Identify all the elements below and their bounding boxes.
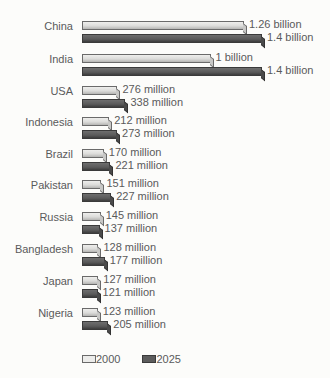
value-label-2000: 151 million: [106, 177, 159, 189]
value-label-2025: 205 million: [113, 318, 166, 330]
legend-swatch-2025: [142, 355, 156, 363]
bar-2000: [82, 54, 211, 63]
category-label: Indonesia: [25, 116, 73, 128]
category-label: Bangladesh: [15, 243, 73, 255]
category-label: Pakistan: [31, 179, 73, 191]
value-label-2000: 127 million: [103, 273, 156, 285]
category-label: China: [44, 20, 73, 32]
bar-2000: [82, 276, 98, 285]
value-label-2025: 338 million: [130, 96, 183, 108]
category-label: USA: [50, 85, 73, 97]
bar-2025: [82, 130, 117, 139]
value-label-2000: 1.26 billion: [249, 18, 302, 30]
value-label-2000: 170 million: [109, 146, 162, 158]
bar-2025: [82, 289, 98, 298]
value-label-2025: 1.4 billion: [267, 31, 313, 43]
category-label: Japan: [43, 275, 73, 287]
value-label-2025: 137 million: [105, 222, 158, 234]
value-label-2025: 1.4 billion: [267, 64, 313, 76]
bar-2025: [82, 321, 108, 330]
bar-2000: [82, 308, 98, 317]
value-label-2000: 276 million: [122, 83, 175, 95]
value-label-2025: 227 million: [116, 190, 169, 202]
bar-2000: [82, 149, 104, 158]
category-label: Russia: [39, 211, 73, 223]
value-label-2000: 1 billion: [216, 51, 253, 63]
bar-2025: [82, 257, 105, 266]
bar-2025: [82, 225, 100, 234]
value-label-2025: 273 million: [122, 127, 175, 139]
legend-swatch-2000: [82, 355, 96, 363]
value-label-2000: 128 million: [103, 241, 156, 253]
legend-label-2025: 2025: [156, 353, 180, 365]
value-label-2000: 212 million: [114, 114, 167, 126]
bar-2025: [82, 99, 125, 108]
value-label-2000: 145 million: [106, 209, 159, 221]
legend-label-2000: 2000: [96, 353, 120, 365]
bar-2000: [82, 117, 109, 126]
value-label-2025: 177 million: [110, 254, 163, 266]
bar-2025: [82, 34, 262, 43]
bar-2000: [82, 86, 117, 95]
bar-2000: [82, 244, 98, 253]
bar-2025: [82, 162, 110, 171]
value-label-2000: 123 million: [103, 305, 156, 317]
bar-2000: [82, 21, 244, 30]
legend: 2000 2025: [82, 353, 181, 365]
category-label: Nigeria: [38, 307, 73, 319]
bar-2000: [82, 212, 101, 221]
value-label-2025: 121 million: [103, 286, 156, 298]
bar-2025: [82, 67, 262, 76]
bar-2000: [82, 180, 101, 189]
category-label: India: [49, 53, 73, 65]
value-label-2025: 221 million: [115, 159, 168, 171]
bar-2025: [82, 193, 111, 202]
category-label: Brazil: [45, 148, 73, 160]
